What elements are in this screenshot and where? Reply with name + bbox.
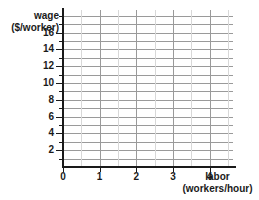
gridline-horizontal (63, 142, 233, 143)
y-tick-label: 14 (14, 44, 54, 54)
y-tick-label: 4 (14, 128, 54, 138)
x-axis-title-unit: (workers/hour) (176, 183, 259, 195)
y-axis-title-name: wage (34, 10, 59, 21)
gridline-horizontal (63, 41, 233, 42)
gridline-horizontal (63, 75, 233, 76)
plot-area (63, 10, 233, 167)
x-tick-label: 2 (125, 172, 147, 182)
gridline-horizontal (63, 24, 233, 25)
x-axis-title-name: labor (176, 171, 259, 183)
gridline-horizontal (63, 33, 233, 34)
gridline-horizontal (63, 150, 233, 151)
gridline-horizontal (63, 83, 233, 84)
y-axis-title-unit: ($/worker) (0, 22, 59, 34)
gridline-vertical-minor (155, 10, 156, 167)
y-tick-label: 2 (14, 145, 54, 155)
y-tick-label: 10 (14, 78, 54, 88)
gridline-vertical-minor (81, 10, 82, 167)
gridline-horizontal (63, 91, 233, 92)
y-tick-label: 6 (14, 112, 54, 122)
x-tick-label: 1 (89, 172, 111, 182)
y-axis-line (62, 8, 64, 168)
gridline-vertical-minor (228, 10, 229, 167)
y-axis-title: wage ($/worker) (0, 10, 59, 34)
wage-labor-chart: 246810121416 01234 wage ($/worker) labor… (0, 0, 259, 200)
gridline-vertical-minor (191, 10, 192, 167)
gridline-horizontal (63, 125, 233, 126)
gridline-horizontal (63, 16, 233, 17)
gridline-horizontal (63, 49, 233, 50)
y-tick-label: 8 (14, 95, 54, 105)
y-tick-label: 12 (14, 61, 54, 71)
gridline-vertical (136, 10, 137, 167)
gridline-vertical-minor (118, 10, 119, 167)
x-tick-label: 0 (52, 172, 74, 182)
gridline-vertical (210, 10, 211, 167)
x-axis-line (62, 166, 236, 168)
gridline-horizontal (63, 108, 233, 109)
gridline-horizontal (63, 100, 233, 101)
gridline-vertical (173, 10, 174, 167)
gridline-horizontal (63, 117, 233, 118)
gridline-horizontal (63, 66, 233, 67)
gridline-vertical (100, 10, 101, 167)
gridline-horizontal (63, 159, 233, 160)
gridline-horizontal (63, 133, 233, 134)
gridline-horizontal (63, 58, 233, 59)
x-axis-title: labor (workers/hour) (176, 171, 259, 195)
